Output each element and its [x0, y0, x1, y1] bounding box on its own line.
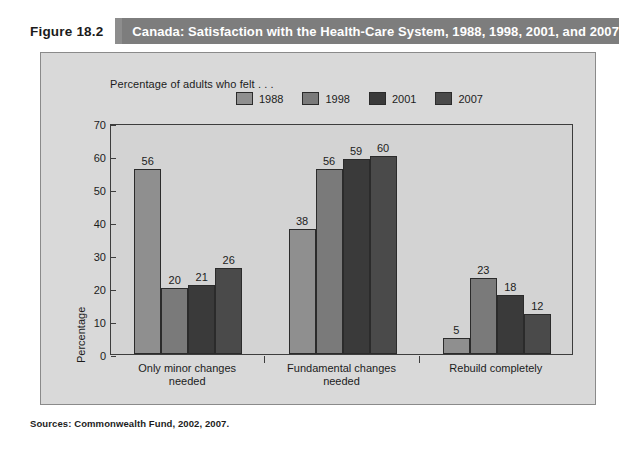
- y-tick-label-70: 70: [81, 119, 111, 131]
- bar[interactable]: [524, 314, 551, 354]
- legend-item-2001[interactable]: 2001: [369, 92, 416, 105]
- x-axis-label-line: needed: [138, 375, 236, 388]
- bar-value-label: 56: [142, 155, 154, 167]
- y-tick-label-30: 30: [81, 251, 111, 263]
- legend-item-1988[interactable]: 1988: [236, 92, 283, 105]
- bar-value-label: 12: [531, 300, 543, 312]
- legend-swatch-2001: [369, 92, 386, 105]
- y-tick-label-0: 0: [81, 350, 111, 362]
- bar-value-label: 56: [323, 155, 335, 167]
- legend-label-2007: 2007: [458, 93, 482, 105]
- sources-note: Sources: Commonwealth Fund, 2002, 2007.: [30, 418, 229, 429]
- x-axis-label-1: Only minor changesneeded: [138, 362, 236, 388]
- legend-label-1988: 1988: [259, 93, 283, 105]
- figure-title-bar: Figure 18.2 Canada: Satisfaction with th…: [22, 18, 619, 44]
- bar-value-label: 60: [377, 142, 389, 154]
- bar[interactable]: [497, 295, 524, 354]
- legend-label-1998: 1998: [325, 93, 349, 105]
- bar[interactable]: [443, 338, 470, 355]
- bar[interactable]: [370, 156, 397, 354]
- x-axis-group-separator: [264, 356, 265, 363]
- x-axis-label-line: needed: [287, 375, 396, 388]
- x-axis-label-3: Rebuild completely: [449, 362, 542, 375]
- bars-layer: 56202126385659605231812: [111, 125, 572, 354]
- y-tick-mark-0: [111, 356, 116, 357]
- bar-value-label: 38: [296, 215, 308, 227]
- x-axis-label-line: Rebuild completely: [449, 362, 542, 375]
- bar-value-label: 59: [350, 145, 362, 157]
- bar[interactable]: [215, 268, 242, 354]
- bar[interactable]: [161, 288, 188, 354]
- bar-value-label: 21: [196, 271, 208, 283]
- x-axis-label-line: Fundamental changes: [287, 362, 396, 375]
- y-tick-label-10: 10: [81, 317, 111, 329]
- y-tick-label-40: 40: [81, 218, 111, 230]
- legend-swatch-1998: [302, 92, 319, 105]
- bar-value-label: 18: [504, 281, 516, 293]
- chart-legend: 1988199820012007: [236, 92, 483, 105]
- bar[interactable]: [188, 285, 215, 354]
- figure-number: Figure 18.2: [22, 18, 111, 44]
- bar[interactable]: [134, 169, 161, 354]
- y-tick-label-20: 20: [81, 284, 111, 296]
- x-axis-label-2: Fundamental changesneeded: [287, 362, 396, 388]
- bar-value-label: 26: [223, 254, 235, 266]
- bar-value-label: 20: [169, 274, 181, 286]
- x-axis-group-separator: [419, 356, 420, 363]
- bar-value-label: 5: [453, 324, 459, 336]
- y-tick-label-60: 60: [81, 152, 111, 164]
- bar[interactable]: [289, 229, 316, 354]
- title-bar-notch: [111, 18, 123, 44]
- figure-container: Figure 18.2 Canada: Satisfaction with th…: [0, 0, 641, 456]
- legend-item-2007[interactable]: 2007: [435, 92, 482, 105]
- x-axis-label-line: Only minor changes: [138, 362, 236, 375]
- legend-item-1998[interactable]: 1998: [302, 92, 349, 105]
- legend-label-2001: 2001: [392, 93, 416, 105]
- bar-value-label: 23: [477, 264, 489, 276]
- plot-area: Percentage 010203040506070 5620212638565…: [110, 124, 573, 355]
- legend-swatch-2007: [435, 92, 452, 105]
- bar[interactable]: [343, 159, 370, 354]
- legend-swatch-1988: [236, 92, 253, 105]
- bar[interactable]: [316, 169, 343, 354]
- caption-note: Percentage of adults who felt . . .: [110, 78, 274, 90]
- figure-title: Canada: Satisfaction with the Health-Car…: [122, 18, 619, 44]
- y-tick-label-50: 50: [81, 185, 111, 197]
- bar[interactable]: [470, 278, 497, 354]
